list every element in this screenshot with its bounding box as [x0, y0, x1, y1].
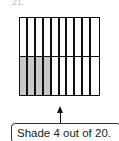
instruction-text: Shade 4 out of 20. — [17, 127, 111, 139]
grid-cell — [52, 18, 60, 57]
grid-cell — [91, 57, 99, 96]
grid-cell — [75, 18, 83, 57]
shaded-cell — [20, 57, 28, 96]
grid-cell — [67, 57, 75, 96]
grid-cell — [28, 18, 36, 57]
instruction-callout: Shade 4 out of 20. — [11, 123, 119, 141]
grid-cell — [75, 57, 83, 96]
shaded-cell — [36, 57, 44, 96]
grid-cell — [44, 18, 52, 57]
shaded-cell — [28, 57, 36, 96]
grid-cell — [60, 18, 68, 57]
grid-cell — [20, 18, 28, 57]
fraction-grid — [19, 17, 100, 96]
grid-cell — [52, 57, 60, 96]
grid-cell — [67, 18, 75, 57]
arrow-shaft — [60, 110, 61, 124]
question-number: 21. — [12, 0, 25, 6]
grid-cell — [91, 18, 99, 57]
grid-cell — [60, 57, 68, 96]
grid-cell — [83, 57, 91, 96]
shaded-cell — [44, 57, 52, 96]
grid-cell — [83, 18, 91, 57]
grid-cell — [36, 18, 44, 57]
